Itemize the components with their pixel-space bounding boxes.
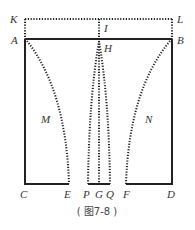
label-B: B: [177, 34, 184, 46]
label-L: L: [176, 13, 183, 25]
label-A: A: [10, 34, 18, 46]
solid-line-BDF: [126, 39, 172, 184]
label-C: C: [20, 188, 28, 200]
label-E: E: [63, 188, 71, 200]
label-F: F: [122, 188, 130, 200]
figure-caption: ( 图7-8 ): [77, 206, 118, 217]
diagram-canvas: K L I A B H M N C E P G Q F D ( 图7-8 ): [0, 0, 195, 230]
label-H: H: [103, 42, 113, 54]
label-K: K: [9, 13, 18, 25]
label-P: P: [82, 188, 90, 200]
label-I: I: [103, 22, 109, 34]
dotted-curve-HQ: [99, 41, 110, 184]
dotted-curve-HP: [88, 41, 99, 184]
label-D: D: [166, 188, 175, 200]
label-N: N: [144, 113, 153, 125]
solid-line-ACE: [25, 39, 69, 184]
label-Q: Q: [106, 188, 114, 200]
label-M: M: [40, 113, 51, 125]
label-G: G: [95, 188, 103, 200]
